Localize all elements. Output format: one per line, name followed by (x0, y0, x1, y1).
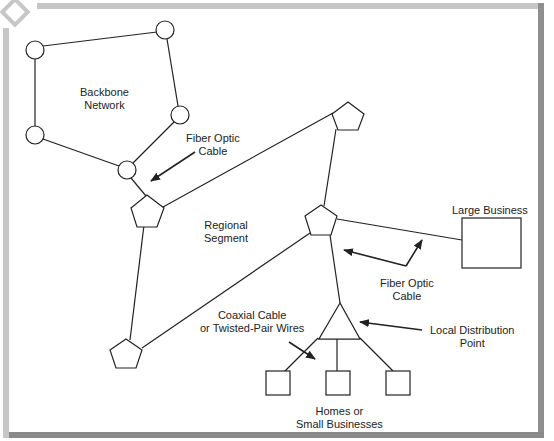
fiber-optic-top-label: Fiber Optic Cable (186, 132, 240, 158)
regional-pentagon-icon (332, 102, 364, 130)
fiber-top-line1: Fiber Optic (186, 132, 240, 145)
fiber-bottom-line1: Fiber Optic (380, 277, 434, 290)
backbone-label: Backbone Network (80, 86, 129, 112)
homes-line1: Homes or (296, 405, 383, 418)
home-box-icon (386, 371, 410, 395)
backbone-label-line1: Backbone (80, 86, 129, 99)
fiber-optic-bottom-label: Fiber Optic Cable (380, 277, 434, 303)
backbone-label-line2: Network (80, 99, 129, 112)
fiber-bottom-arrow-right-icon (406, 240, 422, 266)
distribution-triangle-icon (319, 303, 360, 339)
coaxial-line1: Coaxial Cable (200, 309, 304, 322)
regional-pentagon-icon (305, 205, 337, 235)
backbone-node-icon (156, 21, 174, 39)
local-distribution-line1: Local Distribution (430, 324, 514, 337)
fiber-top-line2: Cable (186, 145, 240, 158)
large-business-box-icon (462, 218, 521, 268)
backbone-node-icon (26, 126, 44, 144)
network-diagram (0, 0, 554, 441)
coaxial-label: Coaxial Cable or Twisted-Pair Wires (200, 309, 304, 335)
home-box-icon (326, 371, 350, 395)
regional-line2: Segment (204, 232, 248, 245)
homes-label: Homes or Small Businesses (296, 405, 383, 431)
fiber-bottom-arrow-left-icon (344, 250, 406, 266)
regional-pentagon-icon (131, 195, 164, 227)
regional-label: Regional Segment (204, 219, 248, 245)
homes-line2: Small Businesses (296, 418, 383, 431)
coaxial-line2: or Twisted-Pair Wires (200, 322, 304, 335)
backbone-node-icon (171, 106, 189, 124)
home-box-icon (266, 371, 290, 395)
large-business-label: Large Business (452, 204, 528, 217)
local-distribution-line2: Point (430, 337, 514, 350)
fiber-bottom-line2: Cable (380, 290, 434, 303)
regional-pentagon-icon (110, 339, 142, 368)
local-distribution-label: Local Distribution Point (430, 324, 514, 350)
distribution-links (285, 338, 393, 371)
backbone-node-icon (118, 161, 136, 179)
local-distribution-arrow-icon (360, 322, 422, 330)
backbone-to-regional-link (131, 178, 146, 196)
regional-line1: Regional (204, 219, 248, 232)
homes-nodes (266, 371, 410, 395)
backbone-node-icon (26, 41, 44, 59)
